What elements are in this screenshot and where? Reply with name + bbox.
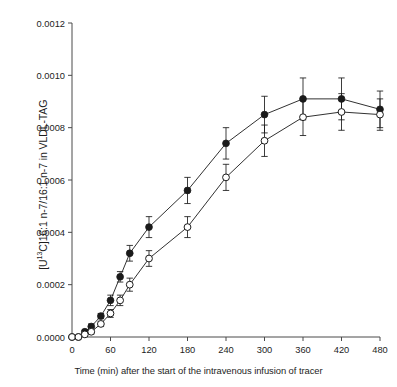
data-point-filled bbox=[97, 313, 104, 320]
x-tick-label: 360 bbox=[295, 345, 311, 355]
x-tick-label: 480 bbox=[372, 345, 388, 355]
data-point-open bbox=[377, 111, 384, 118]
y-tick-label: 0.0000 bbox=[37, 333, 65, 343]
data-point-open bbox=[300, 114, 307, 121]
data-point-open bbox=[338, 109, 345, 116]
data-point-filled bbox=[184, 187, 191, 194]
data-point-filled bbox=[261, 111, 268, 118]
data-point-open bbox=[146, 255, 153, 262]
data-point-filled bbox=[107, 297, 114, 304]
data-point-open bbox=[69, 334, 76, 341]
x-tick-label: 300 bbox=[257, 345, 273, 355]
chart-figure: [U13C]16:1 n-7/16:1 n-7 in VLDL-TAG Time… bbox=[0, 0, 397, 387]
data-point-open bbox=[223, 174, 230, 181]
data-point-filled bbox=[146, 224, 153, 231]
data-point-filled bbox=[126, 250, 133, 257]
data-point-open bbox=[117, 297, 124, 304]
y-tick-label: 0.0010 bbox=[37, 71, 65, 81]
data-point-filled bbox=[338, 95, 345, 102]
x-tick-label: 60 bbox=[105, 345, 115, 355]
data-point-open bbox=[75, 334, 82, 341]
data-point-open bbox=[126, 281, 133, 288]
x-tick-label: 180 bbox=[180, 345, 196, 355]
data-point-open bbox=[107, 310, 114, 317]
data-point-filled bbox=[300, 95, 307, 102]
y-tick-label: 0.0012 bbox=[37, 19, 65, 29]
y-tick-label: 0.0008 bbox=[37, 123, 65, 133]
x-tick-label: 240 bbox=[218, 345, 234, 355]
y-tick-label: 0.0006 bbox=[37, 176, 65, 186]
x-tick-label: 0 bbox=[69, 345, 74, 355]
data-point-filled bbox=[223, 140, 230, 147]
y-tick-label: 0.0002 bbox=[37, 280, 65, 290]
y-tick-label: 0.0004 bbox=[37, 228, 65, 238]
data-point-open bbox=[88, 328, 95, 335]
data-point-open bbox=[81, 331, 88, 338]
x-tick-label: 120 bbox=[141, 345, 157, 355]
data-point-open bbox=[184, 224, 191, 231]
data-point-open bbox=[261, 137, 268, 144]
data-point-open bbox=[97, 321, 104, 328]
data-point-filled bbox=[117, 273, 124, 280]
plot-area: 0.00000.00020.00040.00060.00080.00100.00… bbox=[0, 0, 397, 387]
x-tick-label: 420 bbox=[334, 345, 350, 355]
